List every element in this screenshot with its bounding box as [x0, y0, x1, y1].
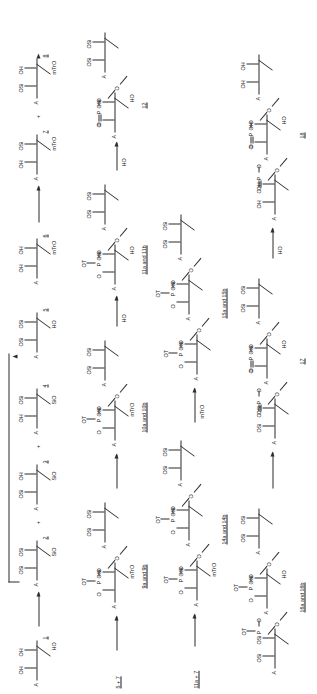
- bond: [258, 166, 259, 172]
- base-label: A: [254, 550, 260, 554]
- base-label: A: [262, 156, 268, 160]
- bond: [259, 335, 267, 344]
- oxygen-label: O: [187, 268, 193, 272]
- bond: [259, 565, 267, 574]
- compound-label-12: 12: [140, 102, 146, 108]
- bond: [160, 293, 169, 294]
- phosphate-oxo-label: O: [247, 145, 253, 149]
- compound-label-9: 9a and 9b: [140, 564, 146, 588]
- base-label: A: [110, 134, 116, 138]
- base-label: A: [110, 442, 116, 446]
- base-label: A: [262, 380, 268, 384]
- phosphorus-label: P: [95, 110, 101, 114]
- phosphate-top-label: OT: [154, 516, 160, 524]
- scheme-row-2: 5 + 7 A O OSi mTrO P OT O: [80, 0, 158, 694]
- substituent-3p: OSi: [239, 285, 245, 294]
- compound-label-17-text: 17: [298, 358, 304, 364]
- substituent-2p: OSi: [255, 653, 261, 662]
- compound-label-11: 11a and 11b: [140, 245, 146, 274]
- base-label: A: [100, 382, 106, 386]
- phosphate-top-label: OT: [232, 584, 238, 592]
- bond: [258, 404, 259, 411]
- trimer-unit-3: A OSi OSi: [160, 432, 208, 486]
- substituent-2p: OSi: [85, 365, 91, 374]
- bond-stub-left: [92, 59, 104, 60]
- oxygen-label: O: [265, 108, 271, 112]
- oxygen-label: O: [195, 554, 201, 558]
- reagent-label-ho: HO: [276, 246, 282, 254]
- bond: [98, 570, 99, 576]
- bond: [160, 519, 169, 520]
- phosphorus-label: P: [169, 518, 175, 522]
- reaction-arrow-17-to-18: [272, 228, 273, 258]
- bond: [246, 631, 255, 632]
- phosphorus-label: P: [169, 292, 175, 296]
- compound-label-10-text: 10a and 10b: [140, 402, 146, 432]
- substituent-5p: HO: [280, 340, 286, 348]
- substituent-3p: OH: [239, 62, 245, 70]
- bond: [250, 122, 251, 128]
- trimer-unit-3: A OSi OSi: [160, 206, 208, 260]
- bond: [189, 331, 197, 340]
- bond-stub-left: [92, 367, 104, 368]
- scheme-row-4: A OSi OSi O P OT O A O: [236, 0, 314, 694]
- oxygen-label: O: [113, 238, 119, 242]
- bond: [250, 136, 251, 143]
- phosphorus-label: P: [255, 400, 261, 404]
- bond-stub-left: [262, 425, 274, 426]
- oxygen-label: O: [265, 332, 271, 336]
- base-label: A: [176, 482, 182, 486]
- trimer-unit-3: A OH OH: [238, 46, 286, 100]
- bond: [98, 252, 99, 258]
- base-label: A: [100, 226, 106, 230]
- compound-label-12-text: 12: [140, 102, 146, 108]
- dimer-unit-right: A OSi OSi: [84, 494, 132, 548]
- oxygen-label: O: [187, 494, 193, 498]
- base-label: A: [270, 440, 276, 444]
- bond-stub-right: [246, 517, 258, 518]
- sugar-tail: [104, 24, 118, 48]
- base-label: A: [254, 96, 260, 100]
- dimer-unit-right: A OSi OSi: [84, 332, 132, 386]
- phosphorus-label: P: [255, 630, 261, 634]
- reaction-arrow-to-14: [194, 614, 195, 646]
- bond: [250, 346, 251, 352]
- reaction-arrow-to-9: [116, 616, 117, 650]
- sugar-tail: [180, 206, 194, 230]
- substituent-5p: HO: [128, 246, 134, 254]
- double-bond: [260, 180, 261, 187]
- bond-stub-left: [262, 655, 274, 656]
- bond-stub-left: [246, 81, 258, 82]
- bond-stub-left: [246, 535, 258, 536]
- base-label: A: [184, 316, 190, 320]
- compound-label-18-text: 18: [298, 132, 304, 138]
- reaction-arrow-10-to-11: [116, 296, 117, 326]
- compound-label-14-text: 14a and 14b: [220, 514, 226, 544]
- bond: [181, 271, 189, 280]
- phosphorus-label: P: [177, 578, 183, 582]
- compound-label-9-text: 9a and 9b: [140, 564, 146, 588]
- bond: [267, 171, 275, 180]
- row2-start-label: 5 + 7: [114, 676, 120, 688]
- bond-stub-right: [246, 287, 258, 288]
- bond: [258, 390, 259, 396]
- bond-stub-left: [246, 305, 258, 306]
- bond: [258, 180, 259, 187]
- bond: [86, 581, 95, 582]
- oxygen-label: O: [113, 86, 119, 90]
- base-label: A: [270, 216, 276, 220]
- base-label: A: [100, 544, 106, 548]
- bond-stub-left: [92, 211, 104, 212]
- sugar-tail: [258, 270, 272, 294]
- substituent-2p: OSi: [85, 57, 91, 66]
- double-bond: [252, 136, 253, 143]
- trimer-unit-3: A OSi OSi: [238, 270, 286, 324]
- reaction-arrow-11-to-12: [116, 142, 117, 170]
- compound-label-15: 15a and 15b: [220, 288, 226, 318]
- phosphate-top-label: OT: [162, 576, 168, 584]
- bond: [168, 579, 177, 580]
- substituent-5p: HO: [128, 94, 134, 102]
- reagent-label-ho: HO: [120, 158, 126, 166]
- bond-stub-right: [246, 63, 258, 64]
- bond-stub-left: [92, 529, 104, 530]
